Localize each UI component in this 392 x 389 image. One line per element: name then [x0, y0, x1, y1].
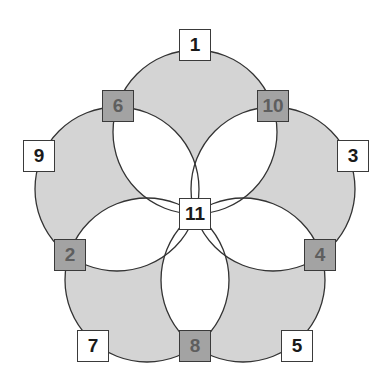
node-box-10: 10	[257, 90, 289, 122]
node-box-7: 7	[77, 330, 109, 362]
node-box-9: 9	[23, 140, 55, 172]
node-box-1: 1	[179, 29, 211, 61]
node-box-8: 8	[179, 330, 211, 362]
node-box-11: 11	[179, 198, 211, 230]
node-box-4: 4	[304, 239, 336, 271]
node-box-2: 2	[54, 239, 86, 271]
node-box-5: 5	[281, 330, 313, 362]
node-box-6: 6	[102, 90, 134, 122]
node-box-3: 3	[337, 140, 369, 172]
